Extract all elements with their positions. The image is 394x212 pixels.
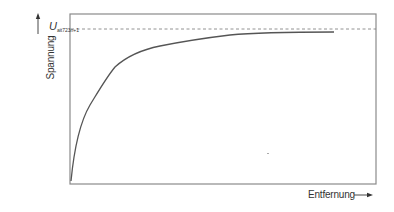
plot-frame bbox=[70, 14, 376, 184]
stray-mark bbox=[267, 153, 269, 154]
x-axis-arrow-icon bbox=[367, 193, 373, 197]
y-axis-label: Spannung bbox=[45, 33, 56, 83]
asymptote-label-main: U bbox=[49, 20, 57, 32]
y-axis-arrow-icon bbox=[36, 13, 40, 19]
asymptote-label: Uait723n+1 bbox=[49, 20, 79, 33]
x-axis-label: Entfernung bbox=[308, 189, 355, 200]
asymptote-label-subscript: ait723n+1 bbox=[57, 27, 79, 33]
